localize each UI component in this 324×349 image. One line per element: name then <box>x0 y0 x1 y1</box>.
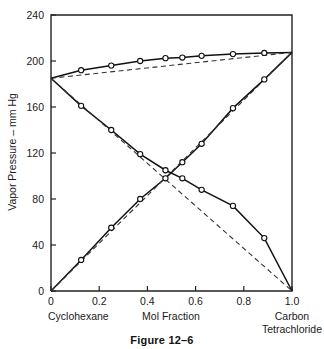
data-point-marker <box>230 52 235 57</box>
x-axis-right-endpoint-label-line1: Carbon <box>275 310 310 322</box>
data-point-marker <box>79 257 84 262</box>
y-tick-label: 80 <box>32 193 44 205</box>
data-point-marker <box>109 127 114 132</box>
data-marker-layer <box>79 50 267 262</box>
y-axis-title-text: Vapor Pressure – mm Hg <box>6 93 18 211</box>
data-point-marker <box>199 187 204 192</box>
y-axis-title: Vapor Pressure – mm Hg <box>6 93 18 211</box>
x-tick-label: 0.4 <box>140 295 155 307</box>
data-point-marker <box>138 58 143 63</box>
y-tick-label: 0 <box>38 285 44 297</box>
data-point-marker <box>262 236 267 241</box>
data-point-marker <box>199 53 204 58</box>
data-point-marker <box>163 56 168 61</box>
x-tick-label: 0.8 <box>236 295 251 307</box>
series-line <box>51 52 292 78</box>
data-series-layer <box>51 52 292 291</box>
y-tick-label: 40 <box>32 239 44 251</box>
data-point-marker <box>163 168 168 173</box>
vapor-pressure-chart: 04080120160200240 00.20.40.60.81.0 Vapor… <box>0 0 324 349</box>
x-tick-label: 0.2 <box>92 295 107 307</box>
data-point-marker <box>109 63 114 68</box>
data-point-marker <box>230 203 235 208</box>
x-tick-label: 1.0 <box>285 295 300 307</box>
figure-caption: Figure 12–6 <box>130 334 193 346</box>
figure-container: 04080120160200240 00.20.40.60.81.0 Vapor… <box>0 0 324 349</box>
data-point-marker <box>138 152 143 157</box>
data-point-marker <box>180 160 185 165</box>
y-tick-label: 200 <box>26 55 44 67</box>
data-point-marker <box>262 50 267 55</box>
data-point-marker <box>109 225 114 230</box>
y-tick-label: 240 <box>26 9 44 21</box>
x-axis-left-endpoint-label: Cyclohexane <box>48 310 109 322</box>
y-tick-label: 160 <box>26 101 44 113</box>
data-point-marker <box>180 176 185 181</box>
x-axis-ticks: 00.20.40.60.81.0 <box>48 286 299 307</box>
data-point-marker <box>79 103 84 108</box>
data-point-marker <box>230 106 235 111</box>
x-axis-right-endpoint-label-line2: Tetrachloride <box>262 323 322 335</box>
data-point-marker <box>180 55 185 60</box>
x-tick-label: 0.6 <box>188 295 203 307</box>
data-point-marker <box>199 141 204 146</box>
data-point-marker <box>262 77 267 82</box>
data-point-marker <box>79 68 84 73</box>
x-tick-label: 0 <box>48 295 54 307</box>
data-point-marker <box>138 196 143 201</box>
data-point-marker <box>163 176 168 181</box>
y-tick-label: 120 <box>26 147 44 159</box>
x-axis-title-text: Mol Fraction <box>142 310 200 322</box>
series-line <box>51 52 292 291</box>
